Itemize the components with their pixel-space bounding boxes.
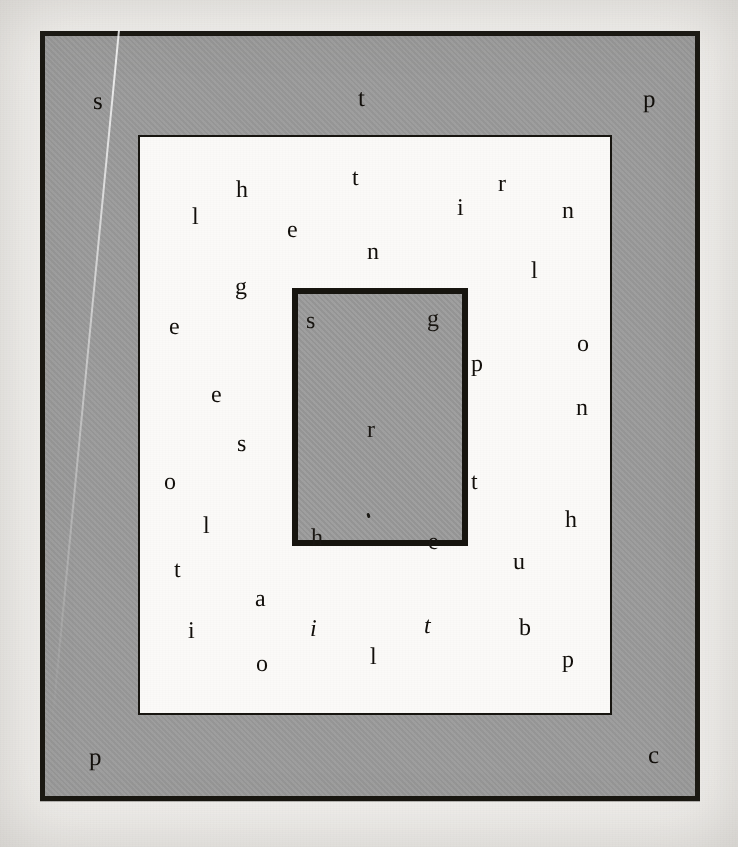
letter-glyph: s — [306, 309, 315, 333]
letter-glyph: e — [169, 315, 180, 339]
letter-glyph: s — [93, 89, 103, 114]
letter-glyph: n — [576, 396, 588, 420]
letter-glyph: g — [427, 307, 439, 331]
letter-glyph: t — [352, 166, 359, 190]
letter-glyph: t — [174, 558, 181, 582]
letter-glyph: o — [577, 332, 589, 356]
letter-glyph: c — [648, 743, 659, 768]
letter-glyph: s — [237, 432, 246, 456]
letter-glyph: p — [562, 648, 574, 672]
letter-glyph: p — [89, 745, 102, 770]
letter-glyph: l — [192, 205, 199, 229]
letter-glyph: e — [287, 218, 298, 242]
letter-glyph: h — [311, 526, 323, 550]
letter-glyph: n — [562, 199, 574, 223]
letter-glyph: l — [203, 514, 210, 538]
letter-glyph: l — [370, 645, 377, 669]
letter-glyph: t — [424, 614, 431, 638]
letter-glyph: o — [164, 470, 176, 494]
letter-glyph: g — [235, 275, 247, 299]
letter-glyph: l — [531, 259, 538, 283]
letter-glyph: t — [471, 470, 478, 494]
letter-glyph: u — [513, 550, 525, 574]
letter-glyph: n — [367, 240, 379, 264]
letter-glyph: h — [236, 178, 248, 202]
letter-glyph: p — [643, 87, 656, 112]
letter-glyph: i — [310, 617, 317, 641]
letter-glyph: a — [255, 587, 266, 611]
inner-rectangle — [292, 288, 468, 546]
letter-glyph: h — [565, 508, 577, 532]
letter-glyph: r — [498, 172, 506, 196]
letter-glyph: i — [457, 196, 464, 220]
scanned-page: ered into the line-by and variable shaky… — [0, 0, 738, 847]
letter-glyph: o — [256, 652, 268, 676]
letter-glyph: p — [471, 352, 483, 376]
letter-glyph: e — [211, 383, 222, 407]
letter-glyph: i — [188, 619, 195, 643]
letter-glyph: e — [428, 530, 439, 554]
letter-glyph: t — [358, 86, 365, 111]
letter-glyph: b — [519, 616, 531, 640]
letter-glyph: r — [367, 418, 375, 442]
